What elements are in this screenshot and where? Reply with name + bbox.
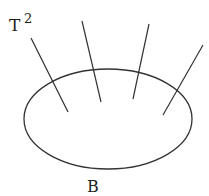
fiber-bundle-diagram: T 2 B — [0, 0, 209, 196]
base-space-ellipse — [24, 69, 192, 169]
fiber-line-2 — [82, 21, 101, 102]
fiber-label-exponent: 2 — [24, 11, 32, 26]
base-label: B — [87, 177, 99, 196]
fiber-line-4 — [163, 45, 203, 115]
fiber-line-3 — [133, 24, 149, 99]
fiber-label: T — [9, 15, 21, 35]
fiber-line-1 — [31, 38, 68, 112]
